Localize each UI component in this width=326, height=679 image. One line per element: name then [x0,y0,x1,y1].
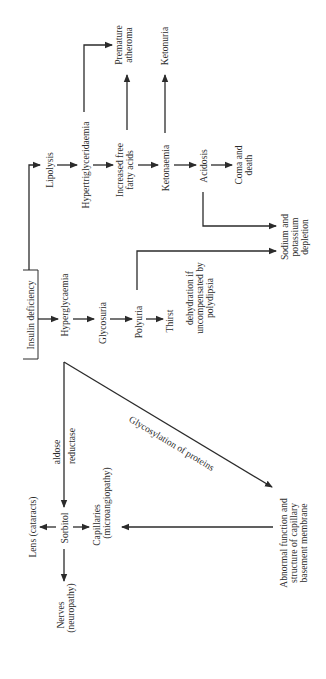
sodium-potassium-depletion-node: Sodium and potassium depletion [279,214,310,260]
arrow-acidosis-to-sodium-depletion [203,192,276,226]
increased-ffa-node: Increased free fatty acids [114,143,135,197]
diabetes-pathophysiology-diagram: Insulin deficiency Hyperglycaemia Glycos… [0,0,326,679]
insulin-deficiency-label: Insulin deficiency [25,280,36,349]
glycosylation-of-proteins-label: Glycosylation of proteins [127,413,216,473]
svg-text:fatty acids: fatty acids [124,150,135,190]
sorbitol-label: Sorbitol [59,512,70,543]
abnormal-membrane-node: Abnormal function and structure of capil… [278,498,309,588]
acidosis-label: Acidosis [198,149,209,183]
coma-death-node: Coma and death [233,145,254,184]
thirst-label: Thirst [164,309,175,332]
capillaries-node: Capillaries (microangiopathy) [91,467,113,545]
lens-cataracts-label: Lens (cataracts) [27,497,39,558]
premature-atheroma-node: Premature atheroma [113,25,134,64]
dehydration-note: dehydration if uncompensated by polydips… [184,262,215,334]
svg-text:basement membrane: basement membrane [298,503,309,582]
nerves-node: Nerves (neuropathy) [55,583,77,633]
hyperglycaemia-label: Hyperglycaemia [59,273,70,337]
svg-text:(microangiopathy): (microangiopathy) [101,467,113,538]
arrow-insulin-to-lipolysis [29,165,40,270]
arrow-hyperglycaemia-to-membrane [64,362,272,487]
lipolysis-label: Lipolysis [44,152,55,188]
glycosuria-label: Glycosuria [97,301,108,344]
insulin-deficiency-node: Insulin deficiency [23,270,38,359]
ketonuria-label: Ketonuria [159,26,170,65]
svg-text:depletion: depletion [299,219,310,255]
svg-text:reductase: reductase [66,428,77,464]
svg-text:aldose: aldose [51,440,62,465]
ketonaemia-label: Ketonaemia [160,144,171,191]
svg-text:(neuropathy): (neuropathy) [65,583,77,633]
svg-text:atheroma: atheroma [123,26,134,62]
arrow-hypertriglyceridaemia-to-atheroma [84,45,112,112]
svg-text:death: death [243,154,254,175]
polyuria-label: Polyuria [133,305,144,338]
svg-text:polydipsia: polydipsia [204,277,215,318]
hypertriglyceridaemia-label: Hypertriglyceridaemia [80,121,91,209]
